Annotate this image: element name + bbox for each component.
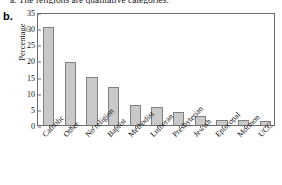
plot-area: 05101520253035 [37, 13, 275, 126]
y-tick-label: 15 [27, 75, 35, 83]
y-tick-mark [38, 78, 41, 79]
bar [86, 77, 97, 125]
y-tick-label: 30 [27, 26, 35, 34]
caption-top-line: a. The religions are qualitative categor… [10, 0, 282, 4]
y-tick-mark [38, 94, 41, 95]
y-tick-label: 25 [27, 42, 35, 50]
bar [43, 27, 54, 125]
y-tick-mark [38, 14, 41, 15]
y-tick-label: 20 [27, 58, 35, 66]
part-label-b: b. [3, 10, 13, 22]
y-tick-label: 0 [31, 123, 35, 131]
y-tick-mark [38, 110, 41, 111]
bar [65, 62, 76, 125]
y-axis-title: Percentage [17, 6, 27, 78]
y-tick-mark [38, 30, 41, 31]
y-tick-label: 10 [27, 91, 35, 99]
y-tick-mark [38, 127, 41, 128]
y-tick-mark [38, 62, 41, 63]
y-tick-label: 35 [27, 10, 35, 18]
y-tick-mark [38, 46, 41, 47]
figure-panel-b: a. The religions are qualitative categor… [0, 0, 282, 185]
y-tick-label: 5 [31, 107, 35, 115]
